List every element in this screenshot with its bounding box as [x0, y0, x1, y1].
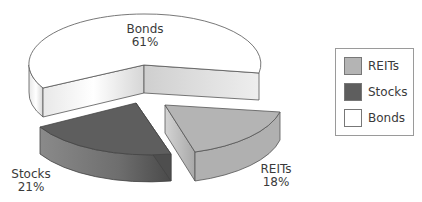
slice-stocks: [40, 103, 171, 182]
legend-swatch-stocks: [344, 83, 362, 101]
legend-item-reits: REITs: [344, 56, 399, 76]
label-stocks-value: 21%: [8, 181, 54, 194]
legend-label-stocks: Stocks: [368, 85, 407, 99]
label-reits: REITs 18%: [256, 163, 296, 189]
legend-item-stocks: Stocks: [344, 82, 407, 102]
legend-swatch-reits: [344, 57, 362, 75]
legend-label-reits: REITs: [368, 59, 399, 73]
legend-label-bonds: Bonds: [368, 111, 405, 125]
legend-swatch-bonds: [344, 109, 362, 127]
label-bonds: Bonds 61%: [118, 23, 172, 49]
label-stocks: Stocks 21%: [8, 168, 54, 194]
legend-item-bonds: Bonds: [344, 108, 405, 128]
legend: REITs Stocks Bonds: [335, 48, 414, 136]
label-reits-value: 18%: [256, 176, 296, 189]
label-bonds-value: 61%: [118, 36, 172, 49]
